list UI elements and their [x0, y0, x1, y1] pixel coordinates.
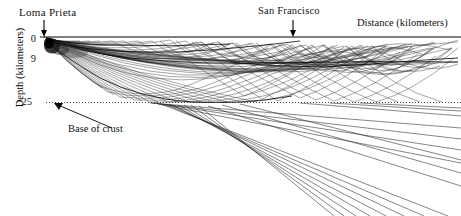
base-of-crust-label: Base of crust [68, 124, 123, 135]
station-label-san-francisco: San Francisco [258, 6, 320, 17]
mantle-ray-bundle [150, 103, 461, 216]
y-tick-label-25: 25 [12, 97, 32, 108]
source-label-loma-prieta: Loma Prieta [19, 7, 76, 18]
seismic-ray-path-figure: Loma Prieta San Francisco Distance (kilo… [0, 0, 461, 216]
y-tick-label-9: 9 [16, 54, 36, 65]
crustal-ray-bundle [46, 38, 458, 102]
san-francisco-arrow [290, 20, 296, 37]
x-axis-label: Distance (kilometers) [357, 18, 448, 29]
ray-path-plot [0, 0, 461, 216]
loma-prieta-arrow [41, 20, 47, 37]
y-tick-label-0: 0 [16, 34, 36, 45]
